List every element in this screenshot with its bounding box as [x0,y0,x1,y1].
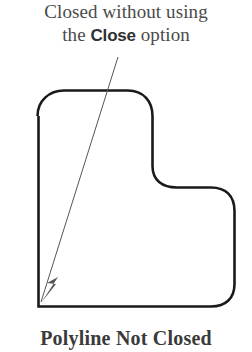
leader-arrowhead-icon [41,277,58,303]
figure-title-caption: Polyline Not Closed [0,326,252,350]
figure-polyline-not-closed: Closed without using the Close option Po… [0,0,252,352]
polyline-drawing [0,0,252,352]
polyline-shape-path [38,91,235,307]
